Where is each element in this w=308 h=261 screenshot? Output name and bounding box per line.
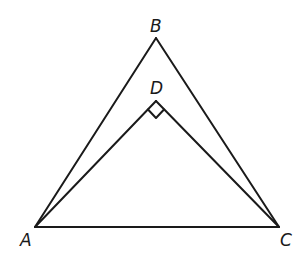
right-angle-marker-icon — [148, 110, 164, 119]
vertex-label-c: C — [280, 232, 292, 249]
triangle-figure — [0, 0, 308, 261]
segment-ab — [35, 38, 156, 227]
segment-dc — [156, 101, 279, 227]
segment-ad — [35, 101, 156, 227]
vertex-label-d: D — [150, 80, 163, 97]
geometry-diagram: B D A C — [0, 0, 308, 261]
vertex-label-a: A — [20, 232, 32, 249]
vertex-label-b: B — [150, 18, 162, 35]
segment-bc — [156, 38, 279, 227]
